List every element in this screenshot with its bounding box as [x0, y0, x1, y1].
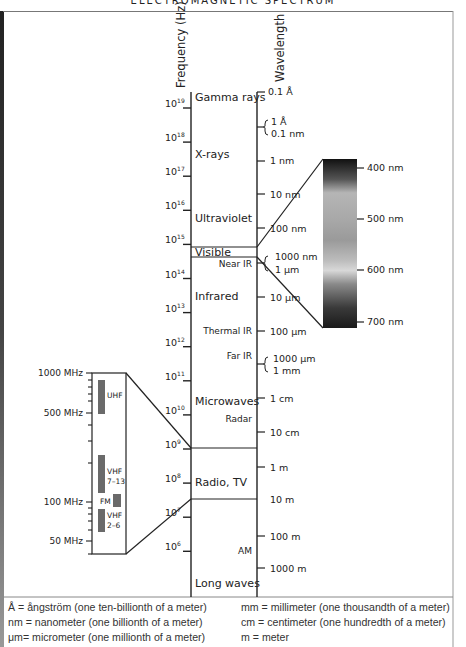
- vhf-high-channels: 7–13: [107, 477, 125, 486]
- radio-inset-ticks: [86, 373, 92, 554]
- wavelength-label: 10 μm: [270, 292, 300, 303]
- frequency-tick-label: 106: [165, 540, 181, 552]
- spectrum-label: 700 nm: [367, 316, 403, 327]
- legend-item: Å = ångström (one ten-billionth of a met…: [8, 600, 207, 615]
- legend-item: cm = centimeter (one hundredth of a mete…: [241, 615, 450, 630]
- band-visible: Visible: [195, 246, 231, 259]
- spectrum-label: 400 nm: [367, 162, 403, 173]
- wavelength-label: 10 cm: [270, 427, 300, 438]
- frequency-tick-label: 107: [165, 506, 181, 518]
- page-edge: [0, 11, 4, 647]
- wavelength-label: 1000 μm: [273, 353, 316, 364]
- frequency-tick-label: 1019: [165, 97, 185, 109]
- spectrum-labels: 400 nm 500 nm 600 nm 700 nm: [367, 162, 403, 327]
- frequency-ticks: 1019101810171016101510141013101210111010…: [165, 97, 191, 552]
- band-am: AM: [238, 546, 252, 556]
- radio-scale-label: 500 MHz: [44, 408, 84, 418]
- vhf-low-label: VHF: [107, 511, 122, 520]
- frequency-tick-label: 1017: [165, 165, 185, 177]
- wavelength-label: 0.1 Å: [268, 86, 293, 97]
- wavelength-label: 100 nm: [270, 223, 306, 234]
- uhf-label: UHF: [107, 391, 122, 400]
- frequency-tick-label: 1018: [165, 131, 185, 143]
- frequency-tick-label: 1016: [165, 199, 185, 211]
- wavelength-label: 1000 nm: [275, 251, 317, 262]
- band-near-ir: Near IR: [219, 259, 252, 269]
- radio-inset-scale: 1000 MHz 500 MHz 100 MHz 50 MHz: [38, 368, 83, 546]
- bracket-icon: [263, 120, 268, 135]
- radio-scale-label: 50 MHz: [49, 536, 83, 546]
- legend-item: mm = millimeter (one thousandth of a met…: [241, 600, 450, 615]
- band-radio-tv: Radio, TV: [195, 476, 248, 489]
- visible-spectrum-bar: [323, 159, 357, 328]
- vhf-7-13-band: [98, 455, 105, 493]
- frequency-tick-label: 1011: [165, 370, 185, 382]
- band-x-rays: X-rays: [195, 148, 230, 161]
- fm-label: FM: [100, 497, 111, 506]
- wavelength-label: 100 μm: [270, 326, 306, 337]
- wavelength-label: 1 Å: [271, 116, 287, 127]
- radio-zoom-line-bottom: [126, 499, 191, 554]
- band-ultraviolet: Ultraviolet: [195, 212, 253, 225]
- spectrum-tick-marks: [357, 168, 364, 322]
- legend-left-column: Å = ångström (one ten-billionth of a met…: [8, 600, 207, 645]
- spectrum-label: 500 nm: [367, 213, 403, 224]
- wavelength-label: 1 mm: [273, 365, 301, 376]
- wavelength-axis-label: Wavelength: [273, 14, 287, 82]
- band-gamma-rays: Gamma rays: [195, 91, 266, 104]
- radio-scale-label: 1000 MHz: [38, 368, 83, 378]
- wavelength-label: 10 m: [270, 494, 294, 505]
- bracket-icon: [263, 357, 268, 372]
- frequency-tick-label: 1015: [165, 233, 185, 245]
- frequency-tick-label: 108: [165, 472, 181, 484]
- wavelength-label: 0.1 nm: [271, 128, 304, 139]
- frequency-tick-label: 1010: [165, 404, 185, 416]
- wavelength-labels: 0.1 Å 1 Å 0.1 nm 1 nm 10 nm 100 nm 1000 …: [268, 86, 317, 574]
- frequency-tick-label: 1013: [165, 302, 185, 314]
- wavelength-label: 1 m: [270, 462, 288, 473]
- band-far-ir: Far IR: [227, 351, 252, 361]
- wavelength-tick-marks: [257, 92, 265, 568]
- legend-right-column: mm = millimeter (one thousandth of a met…: [241, 600, 450, 645]
- frequency-tick-label: 1012: [165, 336, 185, 348]
- wavelength-label: 100 m: [270, 531, 300, 542]
- vhf-high-label: VHF: [107, 467, 122, 476]
- radio-scale-label: 100 MHz: [44, 497, 84, 507]
- band-microwaves: Microwaves: [195, 395, 260, 408]
- uhf-band: [98, 380, 105, 414]
- band-long-waves: Long waves: [195, 577, 260, 590]
- frequency-tick-label: 109: [165, 438, 181, 450]
- vhf-2-6-band: [98, 509, 105, 532]
- wavelength-label: 1 nm: [270, 155, 294, 166]
- band-infrared: Infrared: [195, 290, 238, 303]
- legend-item: μm= micrometer (one millionth of a meter…: [8, 630, 207, 645]
- frequency-tick-label: 1014: [165, 268, 185, 280]
- spectrum-label: 600 nm: [367, 264, 403, 275]
- wavelength-label: 1 cm: [270, 393, 294, 404]
- frequency-axis-label: Frequency (Hz): [174, 1, 188, 88]
- spectrum-diagram: ELECTROMAGNETIC SPECTRUM Frequency (Hz) …: [0, 0, 466, 647]
- vhf-low-channels: 2–6: [107, 521, 121, 530]
- wavelength-label: 1000 m: [270, 563, 306, 574]
- fm-band: [113, 494, 121, 507]
- legend-item: m = meter: [241, 630, 450, 645]
- band-thermal-ir: Thermal IR: [202, 326, 252, 336]
- wavelength-label: 1 μm: [275, 264, 299, 275]
- legend-item: nm = nanometer (one billionth of a meter…: [8, 615, 207, 630]
- diagram-title: ELECTROMAGNETIC SPECTRUM: [131, 0, 336, 6]
- band-radar: Radar: [226, 414, 253, 424]
